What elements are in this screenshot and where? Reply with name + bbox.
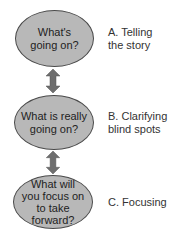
step-a-label: A. Tellingthe story bbox=[108, 26, 152, 52]
step-a-question-line1: What's bbox=[38, 26, 71, 38]
step-c-question-line1: What will bbox=[31, 178, 75, 190]
step-c-label: C. Focusing bbox=[108, 196, 167, 209]
step-a-label-line2: the story bbox=[108, 39, 150, 51]
step-b-label-line2: blind spots bbox=[108, 123, 161, 135]
step-b-ellipse: What is reallygoing on? bbox=[14, 95, 94, 150]
step-b-label-line1: B. Clarifying bbox=[108, 110, 167, 122]
step-a-ellipse: What'sgoing on? bbox=[15, 10, 94, 67]
step-c-question-line3: to take bbox=[36, 202, 69, 214]
step-c-question-line2: you focus on bbox=[22, 190, 84, 202]
step-b-question-line1: What is really bbox=[21, 110, 87, 122]
step-b-question-line2: going on? bbox=[30, 123, 78, 135]
step-a-question-line2: going on? bbox=[30, 39, 78, 51]
step-a-label-line1: A. Telling bbox=[108, 26, 152, 38]
step-b-label: B. Clarifyingblind spots bbox=[108, 110, 167, 136]
double-arrow-icon bbox=[45, 151, 61, 174]
step-c-ellipse: What willyou focus onto takeforward? bbox=[13, 175, 93, 229]
double-arrow-icon bbox=[45, 69, 61, 93]
step-c-label-text: C. Focusing bbox=[108, 196, 167, 208]
step-c-question-line4: forward? bbox=[32, 214, 75, 226]
